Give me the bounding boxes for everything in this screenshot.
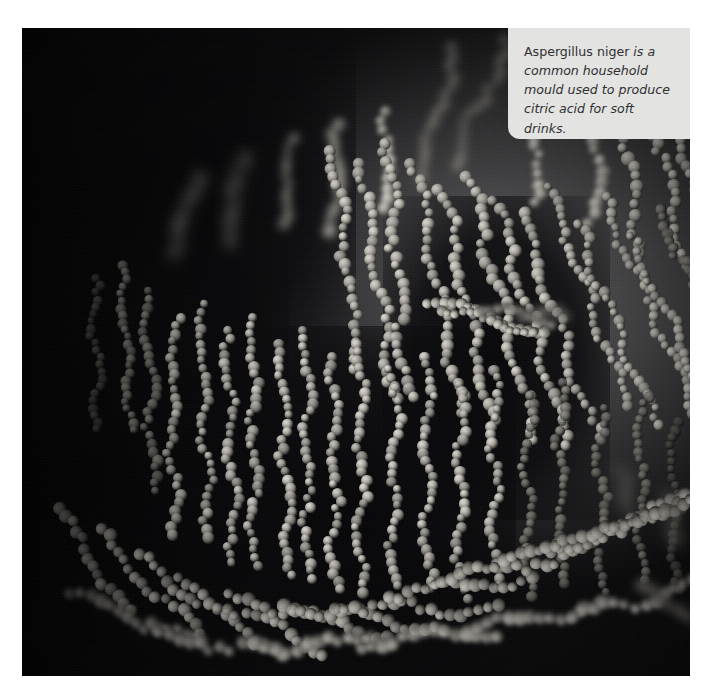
callout-text: Aspergillus niger is a common household … <box>524 42 677 138</box>
callout-lead: is <box>629 44 643 59</box>
species-name: Aspergillus niger <box>524 44 629 59</box>
callout-box: Aspergillus niger is a common household … <box>508 28 690 139</box>
figure-root: Aspergillus niger is a common household … <box>0 0 709 695</box>
